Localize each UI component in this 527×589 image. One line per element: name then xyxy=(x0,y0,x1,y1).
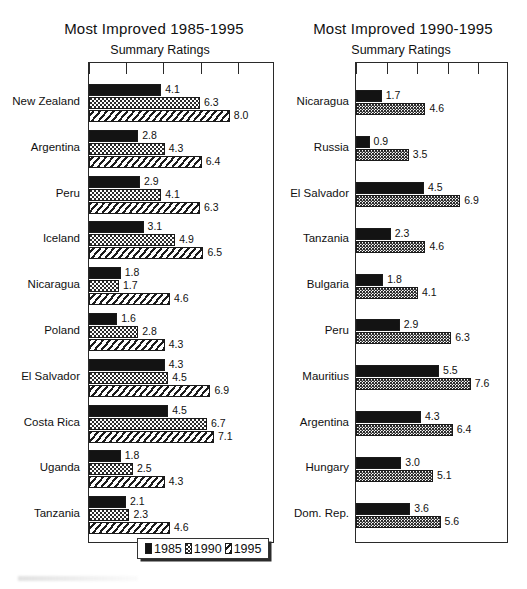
bar-value-label: 1.8 xyxy=(387,273,402,286)
legend-label: 1995 xyxy=(234,542,262,556)
bar-value-label: 2.5 xyxy=(137,462,152,475)
bar-1995 xyxy=(356,287,418,299)
right-bar-groups: 1.74.60.93.54.56.92.34.61.84.12.96.35.57… xyxy=(356,74,507,542)
bar-1990 xyxy=(356,319,400,331)
bar-1995 xyxy=(356,103,425,115)
bar-group: 1.62.84.3 xyxy=(89,313,273,351)
bar-value-label: 2.8 xyxy=(142,129,157,142)
bar-1990 xyxy=(356,503,410,515)
bar-group: 0.93.5 xyxy=(356,136,507,161)
bar-row: 3.6 xyxy=(356,503,507,515)
bar-group: 2.34.6 xyxy=(356,228,507,253)
bar-row: 5.6 xyxy=(356,516,507,528)
bar-group: 2.84.36.4 xyxy=(89,130,273,168)
axis-tick xyxy=(89,63,90,74)
bar-row: 4.5 xyxy=(89,372,273,384)
chart-panel-right: Most Improved 1990-1995 Summary Ratings … xyxy=(263,0,527,589)
bar-1985 xyxy=(89,450,121,462)
bar-1990 xyxy=(356,365,439,377)
bar-group: 5.57.6 xyxy=(356,365,507,390)
bar-1985 xyxy=(89,130,138,142)
bar-1990 xyxy=(356,136,370,148)
bar-value-label: 5.6 xyxy=(445,515,460,528)
bar-1990 xyxy=(89,97,200,109)
bar-row: 4.6 xyxy=(356,241,507,253)
bar-value-label: 1.7 xyxy=(123,279,138,292)
bar-value-label: 2.3 xyxy=(395,227,410,240)
bar-row: 2.1 xyxy=(89,496,273,508)
bar-row: 3.0 xyxy=(356,457,507,469)
bar-group: 4.34.56.9 xyxy=(89,359,273,397)
bar-value-label: 6.3 xyxy=(455,331,470,344)
bar-row: 4.3 xyxy=(89,359,273,371)
bar-row: 7.6 xyxy=(356,378,507,390)
bar-row: 4.3 xyxy=(89,339,273,351)
bar-row: 6.9 xyxy=(89,385,273,397)
bar-value-label: 4.5 xyxy=(172,404,187,417)
right-top-axis-ticks xyxy=(356,63,507,74)
left-chart-title: Most Improved 1985-1995 xyxy=(0,20,286,37)
bar-row: 6.3 xyxy=(89,202,273,214)
bar-value-label: 4.1 xyxy=(165,188,180,201)
bar-1990 xyxy=(89,418,207,430)
bar-value-label: 6.4 xyxy=(206,155,221,168)
legend-label: 1985 xyxy=(154,542,182,556)
bar-value-label: 5.5 xyxy=(443,364,458,377)
bar-1995 xyxy=(89,156,202,168)
bar-group: 4.16.38.0 xyxy=(89,84,273,122)
bar-row: 3.5 xyxy=(356,149,507,161)
bar-group: 2.12.34.6 xyxy=(89,496,273,534)
bar-row: 2.3 xyxy=(356,228,507,240)
bar-row: 0.9 xyxy=(356,136,507,148)
axis-tick xyxy=(126,63,127,74)
scan-artifact xyxy=(18,576,138,581)
category-label: Dom. Rep. xyxy=(294,507,349,520)
bar-value-label: 2.3 xyxy=(133,508,148,521)
bar-value-label: 2.9 xyxy=(144,175,159,188)
bar-value-label: 3.5 xyxy=(413,148,428,161)
category-label: Peru xyxy=(325,324,349,337)
bar-1985 xyxy=(89,84,161,96)
bar-value-label: 7.1 xyxy=(218,430,233,443)
axis-tick xyxy=(387,63,388,74)
category-label: Peru xyxy=(56,187,80,200)
bar-value-label: 6.4 xyxy=(457,423,472,436)
bar-value-label: 1.8 xyxy=(125,449,140,462)
category-label: Tanzania xyxy=(34,507,80,520)
category-label: Tanzania xyxy=(303,232,349,245)
legend-swatch-1990 xyxy=(185,543,192,554)
bar-1995 xyxy=(356,378,471,390)
bar-1990 xyxy=(89,326,138,338)
bar-1995 xyxy=(356,424,453,436)
bar-value-label: 1.8 xyxy=(125,266,140,279)
bar-row: 6.3 xyxy=(356,332,507,344)
axis-tick xyxy=(238,63,239,74)
bar-row: 2.8 xyxy=(89,326,273,338)
category-label: Nicaragua xyxy=(297,95,349,108)
bar-row: 1.8 xyxy=(356,274,507,286)
bar-1990 xyxy=(89,463,133,475)
bar-row: 4.6 xyxy=(89,522,273,534)
bar-value-label: 6.9 xyxy=(214,384,229,397)
bar-row: 2.3 xyxy=(89,509,273,521)
bar-row: 6.9 xyxy=(356,195,507,207)
bar-value-label: 3.0 xyxy=(405,456,420,469)
bar-1990 xyxy=(89,234,175,246)
bar-1985 xyxy=(89,313,117,325)
bar-value-label: 6.5 xyxy=(207,246,222,259)
bar-value-label: 7.6 xyxy=(475,377,490,390)
bar-row: 6.4 xyxy=(89,156,273,168)
left-bar-groups: 4.16.38.02.84.36.42.94.16.33.14.96.51.81… xyxy=(89,74,273,542)
left-top-axis-ticks xyxy=(89,63,273,74)
left-plot-area: 4.16.38.02.84.36.42.94.16.33.14.96.51.81… xyxy=(88,62,274,543)
bar-row: 1.6 xyxy=(89,313,273,325)
legend-item-1985: 1985 xyxy=(145,542,182,556)
category-label: Argentina xyxy=(31,141,80,154)
bar-group: 4.56.77.1 xyxy=(89,405,273,443)
bar-row: 4.5 xyxy=(89,405,273,417)
bar-row: 4.6 xyxy=(89,293,273,305)
axis-tick xyxy=(417,63,418,74)
bar-value-label: 3.6 xyxy=(414,502,429,515)
category-label: Iceland xyxy=(43,232,80,245)
bar-value-label: 6.9 xyxy=(464,194,479,207)
